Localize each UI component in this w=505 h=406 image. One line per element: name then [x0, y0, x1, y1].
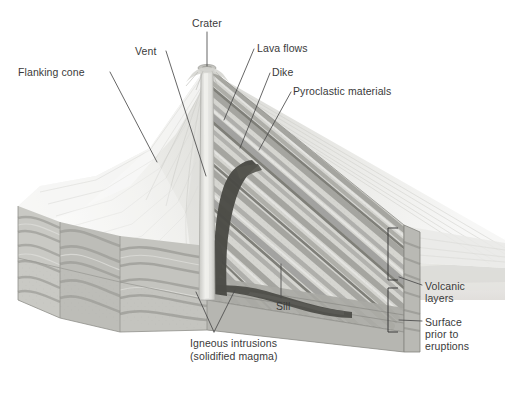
label-igneous-intrusions-line1: Igneous intrusions [190, 337, 277, 349]
label-surface-prior-line3: eruptions [425, 340, 469, 352]
label-volcanic-layers-line1: Volcanic [425, 280, 465, 292]
label-crater: Crater [192, 17, 222, 29]
block-right-side-face [404, 225, 420, 352]
label-dike: Dike [272, 66, 293, 78]
label-surface-prior-line2: prior to [425, 328, 458, 340]
leader-flanking-cone [110, 72, 157, 162]
label-volcanic-layers-line2: layers [425, 292, 454, 304]
label-surface-prior-line1: Surface [425, 316, 462, 328]
label-flanking-cone: Flanking cone [18, 66, 85, 78]
label-lava-flows: Lava flows [257, 42, 308, 54]
label-vent: Vent [135, 45, 156, 57]
label-igneous-intrusions-line2: (solidified magma) [190, 350, 278, 362]
label-sill: Sill [276, 300, 290, 312]
volcano-diagram-figure: Flanking cone Vent Crater Lava flows Dik… [0, 0, 505, 406]
label-pyroclastic-materials: Pyroclastic materials [293, 85, 391, 97]
central-conduit-vent [199, 70, 215, 300]
